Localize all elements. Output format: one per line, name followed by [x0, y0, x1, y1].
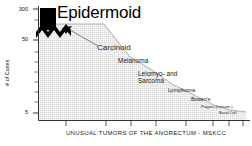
series-label-bowens: Bowen's	[191, 97, 210, 102]
x-axis	[39, 121, 251, 127]
series-label-leiomyo-line1: Leiomyo- and	[138, 70, 177, 77]
series-label-melanoma: Melanoma	[118, 58, 148, 65]
series-label-pagets: Pagets (extram.)	[201, 105, 233, 109]
y-axis-title: # of Cases	[5, 51, 11, 95]
series-label-leiomyo-line2: Sarcoma	[138, 77, 164, 84]
chart-figure: 300 50 5 # of Cases Epidermoid Carcinoid…	[0, 0, 252, 146]
series-label-lymphoma: Lymphoma	[168, 88, 195, 94]
series-label-leiomyosarcoma: Leiomyo- and Sarcoma	[138, 70, 177, 85]
y-tick-label-50: 50	[10, 37, 28, 43]
series-label-carcinoid: Carcinoid	[97, 44, 131, 52]
series-label-basal-cell: Basal Cell	[219, 111, 237, 115]
y-tick-label-5: 5	[10, 110, 28, 116]
x-axis-title: UNUSUAL TUMORS OF THE ANORECTUM - MSKCC	[40, 130, 252, 136]
y-tick-label-300: 300	[10, 7, 28, 13]
series-label-epidermoid: Epidermoid	[57, 4, 141, 21]
y-axis	[33, 6, 39, 121]
